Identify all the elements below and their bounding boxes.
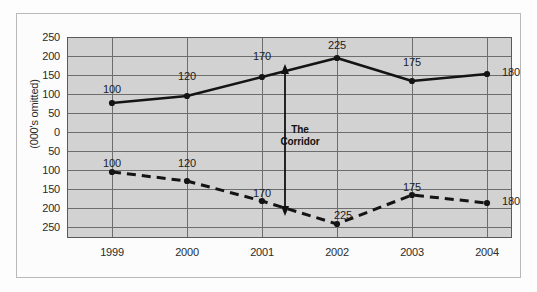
lower-dashed-series	[112, 172, 487, 224]
lower-label-2002: 225	[323, 210, 363, 221]
corridor-line-1: The	[262, 124, 338, 136]
x-tick-2001: 2001	[234, 247, 290, 258]
y-tick-100-lower: 100	[26, 165, 60, 176]
y-tick-250-lower: 250	[26, 222, 60, 233]
data-point	[184, 93, 190, 99]
x-tick-1999: 1999	[84, 247, 140, 258]
y-tick-150-lower: 150	[26, 184, 60, 195]
data-point	[259, 74, 265, 80]
data-point	[334, 55, 340, 61]
x-tick-2003: 2003	[384, 247, 440, 258]
arrowhead-down	[281, 206, 289, 216]
y-tick-150-upper: 150	[26, 70, 60, 81]
upper-label-2004: 180	[491, 67, 531, 78]
lower-label-1999: 100	[92, 158, 132, 169]
data-point	[484, 200, 490, 206]
upper-label-2002: 225	[317, 40, 357, 51]
corridor-annotation: The Corridor	[262, 124, 338, 148]
lower-label-2000: 120	[167, 158, 207, 169]
y-tick-250-upper: 250	[26, 32, 60, 43]
lower-label-2004: 180	[491, 196, 531, 207]
arrowhead-up	[281, 64, 289, 74]
data-point	[334, 221, 340, 227]
upper-label-1999: 100	[92, 84, 132, 95]
x-tick-2000: 2000	[159, 247, 215, 258]
chart-figure: (000's omitted) 250 200 150 100 50 0 50 …	[0, 0, 537, 292]
y-tick-200-upper: 200	[26, 51, 60, 62]
data-point	[409, 78, 415, 84]
x-tick-2004: 2004	[459, 247, 515, 258]
upper-label-2003: 175	[392, 57, 432, 68]
lower-label-2003: 175	[392, 182, 432, 193]
y-tick-100-upper: 100	[26, 89, 60, 100]
lower-label-2001: 170	[242, 188, 282, 199]
upper-label-2001: 170	[242, 51, 282, 62]
upper-label-2000: 120	[167, 71, 207, 82]
data-point	[484, 71, 490, 77]
y-tick-200-lower: 200	[26, 203, 60, 214]
y-tick-50-upper: 50	[26, 108, 60, 119]
x-tick-2002: 2002	[309, 247, 365, 258]
corridor-line-2: Corridor	[262, 136, 338, 148]
data-point	[109, 100, 115, 106]
y-tick-50-lower: 50	[26, 146, 60, 157]
data-point	[109, 169, 115, 175]
data-point	[184, 178, 190, 184]
y-tick-0: 0	[26, 127, 60, 138]
